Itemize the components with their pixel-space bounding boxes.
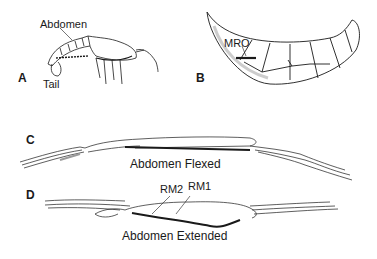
panel-label-d: D [26, 189, 35, 201]
caption-abdomen-flexed: Abdomen Flexed [130, 158, 221, 170]
diagram-artwork [0, 0, 377, 259]
label-rm1: RM1 [188, 181, 211, 192]
caption-abdomen-extended: Abdomen Extended [122, 230, 227, 242]
receptor-extended-illustration [45, 196, 338, 227]
label-tail: Tail [43, 79, 60, 90]
label-rm2: RM2 [160, 184, 183, 195]
label-mro: MRO [224, 38, 250, 49]
crayfish-illustration [48, 28, 158, 84]
label-abdomen: Abdomen [40, 19, 87, 30]
panel-label-c: C [26, 134, 35, 146]
panel-label-a: A [18, 72, 27, 84]
panel-label-b: B [196, 72, 205, 84]
